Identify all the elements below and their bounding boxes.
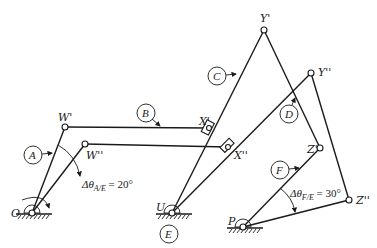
label-w1: W': [58, 111, 72, 124]
link-a-position-1: [32, 127, 65, 213]
label-x2: X'': [233, 149, 248, 162]
joint-z2: [346, 197, 352, 203]
joint-w2: [82, 141, 88, 147]
svg-text:E: E: [164, 228, 172, 240]
link-label-c: C: [208, 67, 236, 85]
joint-p: [240, 224, 246, 230]
link-b-position-1: [65, 127, 209, 128]
svg-text:B: B: [142, 107, 149, 119]
link-c-position-1: [172, 30, 264, 213]
linkage-diagram: O W' W'' X' X'' U Y' Y'' Z' Z'' P A B C …: [0, 0, 377, 248]
label-y1: Y': [260, 12, 270, 25]
joint-u: [169, 210, 175, 216]
label-x1: X': [198, 115, 210, 128]
label-z2: Z'': [355, 194, 370, 207]
label-p: P: [227, 215, 236, 228]
link-label-e: E: [160, 225, 178, 243]
label-w2: W'': [86, 149, 103, 162]
angle-label-f: ΔθF/E = 30°: [289, 187, 341, 202]
label-z1: Z': [306, 143, 318, 156]
link-label-f: F: [271, 161, 299, 179]
angle-label-a: ΔθA/E = 20°: [81, 178, 133, 193]
link-f-position-1: [243, 148, 320, 227]
joint-z1: [317, 145, 323, 151]
link-label-a: A: [24, 146, 52, 164]
link-d-position-2: [311, 73, 349, 200]
joint-o: [29, 210, 35, 216]
label-y2: Y'': [318, 66, 331, 79]
label-u: U: [156, 201, 166, 214]
svg-text:A: A: [28, 149, 36, 161]
joint-y2: [308, 70, 314, 76]
joint-w1: [62, 124, 68, 130]
link-a-position-2: [32, 144, 85, 213]
svg-text:D: D: [284, 108, 293, 120]
angle-arc-a: [58, 145, 80, 176]
svg-text:C: C: [213, 70, 221, 82]
link-f-position-2: [243, 200, 349, 227]
joint-x2: [226, 145, 231, 150]
link-label-b: B: [137, 104, 160, 126]
joint-y1: [261, 27, 267, 33]
svg-text:F: F: [275, 164, 283, 176]
link-d-position-1: [264, 30, 320, 148]
label-o: O: [11, 207, 20, 220]
